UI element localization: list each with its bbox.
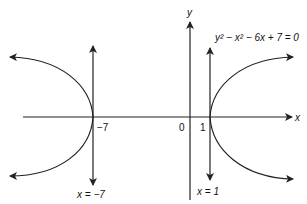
- right-branch-lower: [210, 117, 293, 179]
- left-branch-lower: [10, 117, 93, 176]
- right-branch-upper: [210, 57, 293, 117]
- y-axis-label: y: [186, 7, 193, 18]
- tick-label-left-vertex: −7: [97, 122, 109, 133]
- left-branch-upper: [10, 57, 93, 117]
- left-asymptote-label: x = −7: [76, 189, 105, 200]
- right-asymptote-label: x = 1: [196, 186, 219, 197]
- hyperbola-diagram: y x 0 1 −7 y² − x² − 6x + 7 = 0 x = −7 x…: [0, 0, 307, 204]
- x-axis-label: x: [294, 112, 301, 123]
- equation-label: y² − x² − 6x + 7 = 0: [214, 32, 299, 43]
- origin-label: 0: [179, 122, 185, 133]
- tick-label-right-vertex: 1: [200, 122, 206, 133]
